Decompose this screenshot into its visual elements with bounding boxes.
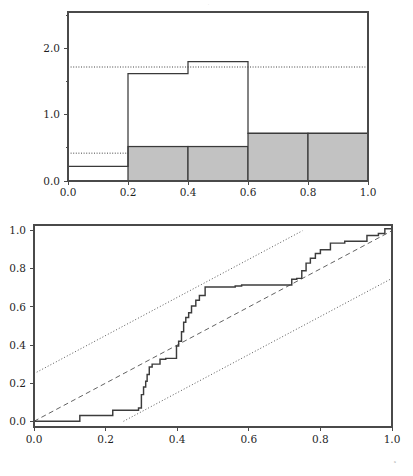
ecdf-x-tick-label: 0.8 [312,433,329,445]
histogram-x-tick-label: 0.4 [180,186,197,198]
histogram-panel: · 0.00.20.40.60.81.0 0.01.02.0 [0,0,413,200]
ecdf-x-tick-label: 0.4 [169,433,186,445]
histogram-y-tick-label: 0.0 [43,175,60,187]
histogram-plot: · 0.00.20.40.60.81.0 0.01.02.0 [0,0,413,200]
histogram-shaded-bar [308,133,368,181]
histogram-y-tick-label: 1.0 [43,108,60,120]
histogram-x-tick-label: 0.2 [120,186,137,198]
ecdf-x-tick-label: 0.0 [26,433,43,445]
histogram-shaded-bar [248,133,308,181]
ecdf-y-tick-labels: 0.00.20.40.60.81.0 [9,224,26,427]
histogram-shaded-bar [188,147,248,181]
histogram-x-tick-label: 0.6 [240,186,257,198]
ecdf-x-tick-label: 0.2 [97,433,114,445]
ecdf-x-tick-label: 1.0 [384,433,401,445]
ecdf-y-tick-label: 0.4 [9,339,26,351]
histogram-micro-label: · [208,3,209,7]
ecdf-x-axis-label: x [394,460,396,464]
histogram-y-tick-label: 2.0 [43,42,60,54]
ecdf-diagonal-line [34,231,392,422]
figure-root: · 0.00.20.40.60.81.0 0.01.02.0 0.00.20.4… [0,0,413,476]
ecdf-y-tick-label: 0.0 [9,415,26,427]
ecdf-x-tick-label: 0.6 [240,433,257,445]
ecdf-y-tick-label: 1.0 [9,224,26,236]
histogram-x-tick-label: 0.0 [60,186,77,198]
histogram-x-tick-label: 1.0 [360,186,377,198]
ecdf-y-tick-label: 0.8 [9,262,26,274]
ecdf-confidence-band [124,278,393,421]
histogram-x-tick-label: 0.8 [300,186,317,198]
ecdf-reference-diagonal [34,231,392,422]
ecdf-tick-marks [30,231,392,431]
ecdf-y-tick-label: 0.6 [9,301,26,313]
histogram-y-tick-labels: 0.01.02.0 [43,42,60,187]
histogram-x-tick-labels: 0.00.20.40.60.81.0 [60,186,377,198]
histogram-shaded-bars [128,133,368,181]
ecdf-y-tick-label: 0.2 [9,377,26,389]
histogram-top-micro-label-group: · [208,3,209,7]
ecdf-confidence-band [34,231,303,374]
ecdf-x-tick-labels: 0.00.20.40.60.81.0 [26,433,401,445]
histogram-shaded-bar [128,147,188,181]
ecdf-panel: 0.00.20.40.60.81.0 0.00.20.40.60.81.0 x [0,200,413,476]
ecdf-plot: 0.00.20.40.60.81.0 0.00.20.40.60.81.0 x [0,200,413,476]
